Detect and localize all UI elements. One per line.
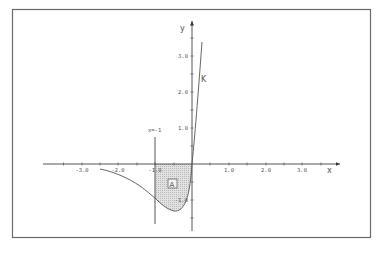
x-tick-label: 2.0 bbox=[261, 167, 271, 173]
x-tick-label: 3.0 bbox=[297, 167, 307, 173]
x-tick-label: -2.0 bbox=[111, 167, 124, 173]
curve-label-K: K bbox=[201, 75, 207, 84]
y-tick-label: 1.0 bbox=[178, 125, 188, 131]
y-tick-label: 3.0 bbox=[178, 53, 188, 59]
x-tick-label: 1.0 bbox=[224, 167, 234, 173]
x-tick-label: -3.0 bbox=[75, 167, 88, 173]
area-label-A: A bbox=[170, 181, 175, 189]
y-tick-label: 2.0 bbox=[178, 89, 188, 95]
x-axis-label: x bbox=[327, 166, 332, 175]
vertical-line-label: x=-1 bbox=[148, 127, 161, 133]
figure-frame bbox=[13, 10, 371, 238]
function-graph: -3.0 -2.0 -1.0 1.0 2.0 3.0 3.0 2.0 1.0 -… bbox=[0, 0, 379, 256]
y-axis-label: y bbox=[180, 24, 185, 33]
